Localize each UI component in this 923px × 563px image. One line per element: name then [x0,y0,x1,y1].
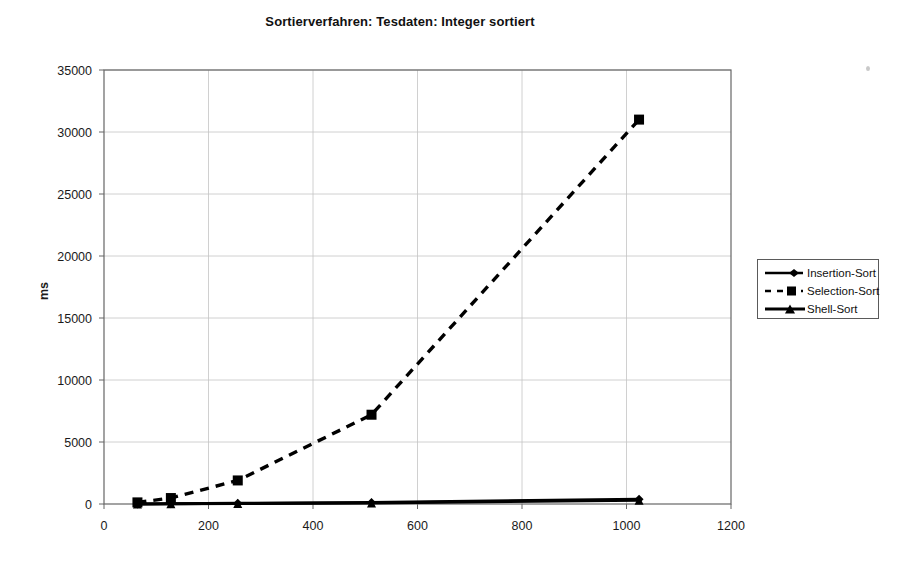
scan-artifact-dot [866,66,870,71]
y-axis-tick-label: 20000 [57,250,92,264]
y-axis-tick-label: 30000 [57,126,92,140]
y-axis-tick-label: 5000 [64,436,92,450]
x-axis-tick-label: 600 [407,519,428,533]
x-axis-tick-label: 0 [101,519,108,533]
shell-sort-line-icon [763,301,805,317]
selection-sort-line-icon [763,283,805,299]
y-axis-tick-label: 35000 [57,64,92,78]
legend-label-shell-sort: Shell-Sort [805,303,858,315]
y-axis-tick-label: 10000 [57,374,92,388]
legend-item-insertion-sort: Insertion-Sort [763,264,873,282]
y-axis-tick-label: 0 [85,498,92,512]
legend-label-insertion-sort: Insertion-Sort [805,267,876,279]
y-axis-tick-label: 15000 [57,312,92,326]
y-axis: 05000100001500020000250003000035000 [57,64,104,512]
x-axis: 020040060080010001200 [101,504,745,533]
series-selection-sort [132,115,644,508]
legend-item-selection-sort: Selection-Sort [763,282,873,300]
insertion-sort-line-icon [763,265,805,281]
x-axis-tick-label: 200 [198,519,219,533]
x-axis-tick-label: 400 [303,519,324,533]
chart-container: Sortierverfahren: Tesdaten: Integer sort… [0,0,923,563]
y-axis-tick-label: 25000 [57,188,92,202]
x-axis-tick-label: 1200 [717,519,745,533]
x-axis-tick-label: 800 [512,519,533,533]
data-point-marker [634,115,644,125]
grid-lines [104,70,731,504]
legend-label-selection-sort: Selection-Sort [805,285,879,297]
x-axis-tick-label: 1000 [613,519,641,533]
y-axis-title: ms [37,282,51,300]
data-point-marker [367,410,377,420]
legend-item-shell-sort: Shell-Sort [763,300,873,318]
data-point-marker [233,475,243,485]
chart-legend: Insertion-Sort Selection-Sort Shell-Sort [757,259,879,319]
